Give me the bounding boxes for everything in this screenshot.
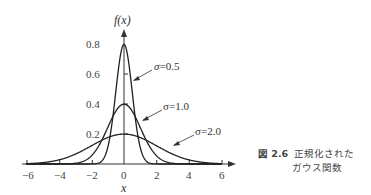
x-tick-label: −4 (54, 169, 66, 181)
annotation-sigma-0.5: σ=0.5 (154, 60, 180, 72)
caption-line-1: 正規化された (294, 148, 354, 159)
figure-number: 図 2.6 (258, 148, 288, 159)
caption-line-2: ガウス関数 (258, 161, 354, 175)
x-tick-label: −2 (86, 169, 98, 181)
annotation-sigma-1.0: σ=1.0 (163, 100, 189, 112)
y-tick-label: 0.8 (86, 38, 100, 50)
y-axis-arrow-icon (121, 29, 127, 37)
x-tick-label: 2 (154, 169, 160, 181)
y-tick-label: 0.6 (86, 68, 100, 80)
x-axis-label: x (120, 181, 127, 195)
annotation-sigma-2.0: σ=2.0 (195, 125, 221, 137)
y-tick-label: 0.2 (86, 128, 100, 140)
y-axis-label: f(x) (114, 13, 131, 27)
x-axis-arrow-icon (228, 161, 236, 167)
x-tick-label: −6 (22, 169, 34, 181)
pointer-arrow-icon (173, 141, 180, 146)
x-tick-label: 6 (219, 169, 225, 181)
pointer-arrow-icon (133, 76, 140, 81)
y-tick-label: 0.4 (86, 98, 100, 110)
x-tick-label: 0 (121, 169, 127, 181)
x-tick-label: 4 (186, 169, 192, 181)
pointer-arrow-icon (142, 116, 149, 121)
figure-caption: 図 2.6正規化された ガウス関数 (258, 147, 354, 175)
